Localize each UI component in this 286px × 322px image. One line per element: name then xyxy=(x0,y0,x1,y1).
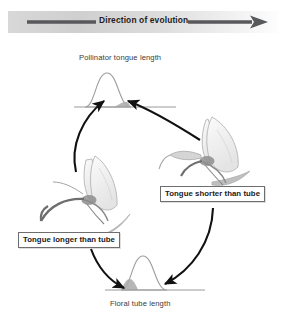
cycle-arrow-right-moth-to-bottom-curve xyxy=(165,208,213,284)
callout-tongue-longer-than-tube: Tongue longer than tube xyxy=(18,232,120,248)
axis-label-floral-tube-length: Floral tube length xyxy=(110,299,170,308)
cycle-arrow-left-moth-to-bottom-curve xyxy=(91,249,124,288)
banner-arrow-icon xyxy=(27,16,268,29)
figure-canvas: Direction of evolution xyxy=(0,0,286,322)
moth-left-long-tongue xyxy=(41,156,130,236)
axis-label-pollinator-tongue-length: Pollinator tongue length xyxy=(79,53,161,62)
chart-pollinator-tongue-distribution xyxy=(74,73,176,107)
moth-right-short-tongue xyxy=(159,117,250,185)
callout-tongue-shorter-than-tube: Tongue shorter than tube xyxy=(160,186,265,202)
diagram-graphics xyxy=(0,0,286,322)
